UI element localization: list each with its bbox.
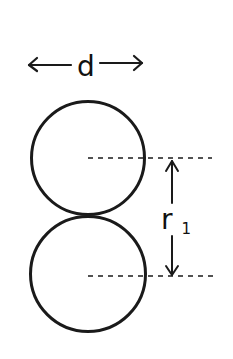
diameter-label: d (77, 50, 95, 83)
two-circles-diagram: d r 1 (0, 0, 233, 359)
bottom-circle (31, 217, 146, 332)
distance-label-subscript: 1 (181, 220, 191, 238)
distance-label-main: r (161, 203, 173, 236)
distance-label: r 1 (161, 203, 191, 238)
